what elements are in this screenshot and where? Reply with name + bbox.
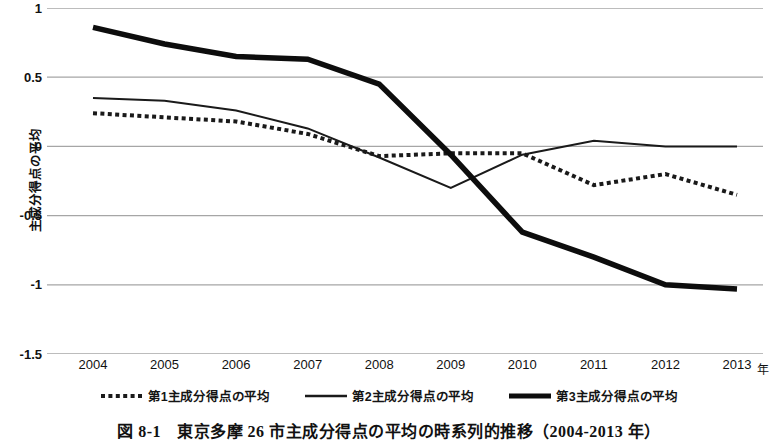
y-tick-label: -1.5: [8, 348, 42, 361]
legend-item-2[interactable]: 第2主成分得点の平均: [304, 386, 474, 405]
x-tick-label: 2004: [65, 358, 121, 371]
figure-caption: 図 8-1東京多摩 26 市主成分得点の平均の時系列的推移（2004-2013 …: [0, 418, 778, 440]
figure-root: 主成分得点の平均 10.50-0.5-1-1.5 200420052006200…: [0, 0, 778, 440]
x-tick-label: 2012: [637, 358, 693, 371]
x-tick-label: 2008: [351, 358, 407, 371]
legend-label: 第3主成分得点の平均: [556, 386, 678, 405]
line-chart-svg: [47, 8, 763, 354]
gridlines: [47, 8, 763, 354]
x-tick-label: 2011: [566, 358, 622, 371]
x-tick-label: 2005: [137, 358, 193, 371]
legend-swatch-solid: [508, 390, 552, 402]
x-axis-tick-labels: 2004200520062007200820092010201120122013: [47, 358, 763, 378]
figure-caption-text: 東京多摩 26 市主成分得点の平均の時系列的推移（2004-2013 年）: [177, 423, 661, 440]
x-tick-label: 2007: [280, 358, 336, 371]
legend-label: 第2主成分得点の平均: [352, 386, 474, 405]
y-tick-label: 0.5: [8, 71, 42, 84]
series-line-1: [93, 113, 737, 195]
y-tick-label: 0: [8, 140, 42, 153]
y-tick-label: 1: [8, 2, 42, 15]
y-tick-label: -1: [8, 278, 42, 291]
series-line-2: [93, 98, 737, 188]
chart-legend: 第1主成分得点の平均第2主成分得点の平均第3主成分得点の平均: [0, 386, 778, 405]
legend-item-1[interactable]: 第1主成分得点の平均: [100, 386, 270, 405]
figure-caption-number: 図 8-1: [117, 423, 161, 440]
legend-swatch-dotted: [100, 390, 144, 402]
series-lines: [93, 27, 737, 289]
x-tick-label: 2009: [423, 358, 479, 371]
y-tick-label: -0.5: [8, 209, 42, 222]
legend-item-3[interactable]: 第3主成分得点の平均: [508, 386, 678, 405]
y-axis-tick-labels: 10.50-0.5-1-1.5: [0, 8, 42, 354]
legend-swatch-solid: [304, 390, 348, 402]
x-tick-label: 2006: [208, 358, 264, 371]
legend-label: 第1主成分得点の平均: [148, 386, 270, 405]
x-tick-label: 2010: [494, 358, 550, 371]
plot-area: [47, 8, 763, 354]
series-line-3: [93, 27, 737, 289]
x-axis-unit-label: 年: [757, 360, 769, 377]
